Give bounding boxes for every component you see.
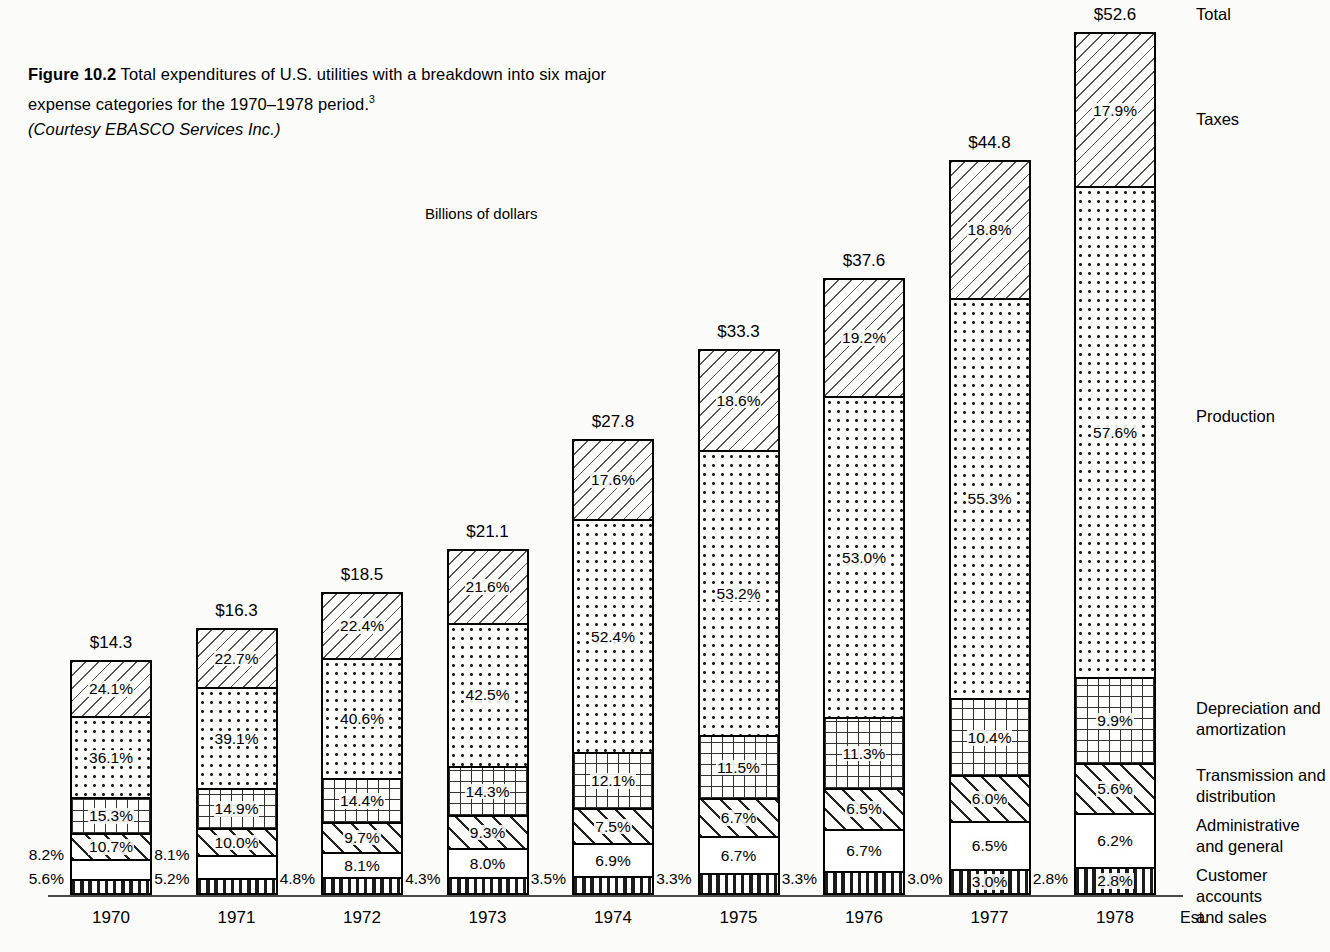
segment-production-1973[interactable]: 42.5%	[449, 625, 527, 768]
segment-customer-1978[interactable]: 2.8%	[1076, 869, 1154, 893]
segment-value-label: 14.4%	[339, 793, 385, 809]
segment-taxes-1977[interactable]: 18.8%	[951, 162, 1029, 300]
segment-taxes-1975[interactable]: 18.6%	[700, 351, 778, 452]
segment-transmission-1976[interactable]: 6.5%	[825, 790, 903, 831]
segment-depreciation-1972[interactable]: 14.4%	[323, 780, 401, 824]
segment-administrative-1978[interactable]: 6.2%	[1076, 815, 1154, 870]
segment-value-label: 9.9%	[1096, 713, 1133, 729]
segment-transmission-1973[interactable]: 9.3%	[449, 817, 527, 850]
segment-depreciation-1973[interactable]: 14.3%	[449, 768, 527, 817]
bar-total-1975: $33.3	[678, 322, 800, 342]
segment-production-1977[interactable]: 55.3%	[951, 300, 1029, 701]
segment-value-label: 7.5%	[594, 819, 631, 835]
segment-production-1971[interactable]: 39.1%	[198, 689, 276, 790]
segment-value-label: 10.4%	[967, 730, 1013, 746]
segment-value-label: 40.6%	[339, 711, 385, 727]
segment-value-label: 55.3%	[967, 491, 1013, 507]
segment-depreciation-1977[interactable]: 10.4%	[951, 700, 1029, 777]
x-axis-label-1977: 1977	[925, 908, 1055, 928]
segment-value-label: 11.3%	[842, 746, 887, 762]
segment-taxes-1972[interactable]: 22.4%	[323, 594, 401, 661]
x-axis-label-1970: 1970	[46, 908, 176, 928]
segment-taxes-1974[interactable]: 17.6%	[574, 441, 652, 521]
segment-production-1970[interactable]: 36.1%	[72, 718, 150, 800]
segment-value-label: 57.6%	[1092, 425, 1138, 441]
segment-value-label: 36.1%	[88, 750, 134, 766]
segment-value-label: 39.1%	[214, 731, 260, 747]
legend-label-customer: Customer accounts and sales	[1196, 865, 1330, 928]
outside-value-label-1970-2: 5.6%	[0, 870, 64, 888]
x-axis-label-1971: 1971	[172, 908, 302, 928]
segment-transmission-1972[interactable]: 9.7%	[323, 824, 401, 854]
x-axis-baseline	[48, 895, 1183, 897]
segment-transmission-1971[interactable]: 10.0%	[198, 830, 276, 857]
segment-depreciation-1978[interactable]: 9.9%	[1076, 679, 1154, 765]
segment-value-label: 42.5%	[465, 687, 511, 703]
segment-value-label: 3.0%	[971, 874, 1008, 890]
segment-taxes-1978[interactable]: 17.9%	[1076, 34, 1154, 188]
outside-value-label-1971-2: 5.2%	[124, 870, 190, 888]
bar-1973[interactable]: 21.6%42.5%14.3%9.3%8.0%4.3%	[447, 549, 529, 895]
segment-depreciation-1975[interactable]: 11.5%	[700, 737, 778, 800]
segment-depreciation-1970[interactable]: 15.3%	[72, 799, 150, 835]
segment-production-1972[interactable]: 40.6%	[323, 660, 401, 780]
segment-transmission-1975[interactable]: 6.7%	[700, 800, 778, 838]
segment-value-label: 6.0%	[971, 791, 1008, 807]
segment-transmission-1978[interactable]: 5.6%	[1076, 765, 1154, 815]
segment-production-1976[interactable]: 53.0%	[825, 398, 903, 719]
segment-value-label: 2.8%	[1096, 873, 1133, 889]
bar-1971[interactable]: 22.7%39.1%14.9%10.0%8.1%5.2%	[196, 628, 278, 895]
segment-depreciation-1976[interactable]: 11.3%	[825, 719, 903, 789]
bar-1974[interactable]: 17.6%52.4%12.1%7.5%6.9%3.5%	[572, 439, 654, 895]
bar-1975[interactable]: 18.6%53.2%11.5%6.7%6.7%3.3%	[698, 349, 780, 895]
segment-value-label: 17.9%	[1092, 103, 1138, 119]
bar-1972[interactable]: 22.4%40.6%14.4%9.7%8.1%4.8%	[321, 592, 403, 895]
segment-depreciation-1974[interactable]: 12.1%	[574, 754, 652, 809]
legend-label-production: Production	[1196, 406, 1275, 427]
outside-value-label-1972-1: 4.8%	[249, 870, 315, 888]
segment-value-label: 10.7%	[88, 839, 134, 855]
y-axis-title: Billions of dollars	[425, 205, 538, 222]
bar-total-1970: $14.3	[50, 633, 172, 653]
segment-value-label: 6.7%	[845, 843, 882, 859]
segment-taxes-1973[interactable]: 21.6%	[449, 551, 527, 625]
segment-depreciation-1971[interactable]: 14.9%	[198, 790, 276, 830]
segment-taxes-1976[interactable]: 19.2%	[825, 280, 903, 398]
bar-1976[interactable]: 19.2%53.0%11.3%6.5%6.7%3.3%	[823, 278, 905, 895]
segment-value-label: 14.9%	[214, 801, 260, 817]
segment-value-label: 53.0%	[841, 550, 887, 566]
segment-taxes-1970[interactable]: 24.1%	[72, 662, 150, 717]
segment-transmission-1974[interactable]: 7.5%	[574, 810, 652, 845]
segment-taxes-1971[interactable]: 22.7%	[198, 630, 276, 690]
x-axis-label-1978: 1978	[1050, 908, 1180, 928]
outside-value-label-1975-1: 3.3%	[626, 870, 692, 888]
segment-value-label: 6.5%	[845, 801, 882, 817]
outside-value-label-1973-1: 4.3%	[375, 870, 441, 888]
segment-production-1974[interactable]: 52.4%	[574, 521, 652, 755]
figure-number: Figure 10.2	[28, 65, 116, 83]
bar-total-1974: $27.8	[552, 412, 674, 432]
segment-value-label: 15.3%	[88, 808, 134, 824]
segment-production-1975[interactable]: 53.2%	[700, 452, 778, 737]
segment-transmission-1977[interactable]: 6.0%	[951, 777, 1029, 822]
bar-1977[interactable]: 18.8%55.3%10.4%6.0%6.5%3.0%	[949, 160, 1031, 895]
segment-administrative-1977[interactable]: 6.5%	[951, 823, 1029, 872]
x-axis-label-1976: 1976	[799, 908, 929, 928]
segment-value-label: 12.1%	[590, 773, 636, 789]
x-axis-label-1974: 1974	[548, 908, 678, 928]
segment-administrative-1976[interactable]: 6.7%	[825, 831, 903, 873]
segment-value-label: 22.4%	[339, 618, 385, 634]
segment-value-label: 10.0%	[214, 835, 260, 851]
segment-value-label: 21.6%	[465, 579, 511, 595]
x-axis-label-1975: 1975	[674, 908, 804, 928]
outside-value-label-1970-1: 8.2%	[0, 846, 64, 864]
outside-value-label-1976-1: 3.3%	[751, 870, 817, 888]
bar-1978[interactable]: 17.9%57.6%9.9%5.6%6.2%2.8%	[1074, 32, 1156, 895]
bar-total-1977: $44.8	[929, 133, 1051, 153]
legend-label-transmission: Transmission and distribution	[1196, 765, 1326, 807]
bar-total-1972: $18.5	[301, 565, 423, 585]
segment-production-1978[interactable]: 57.6%	[1076, 188, 1154, 679]
segment-value-label: 8.0%	[469, 856, 506, 872]
segment-value-label: 6.7%	[720, 810, 757, 826]
legend-label-depreciation: Depreciation and amortization	[1196, 698, 1321, 740]
